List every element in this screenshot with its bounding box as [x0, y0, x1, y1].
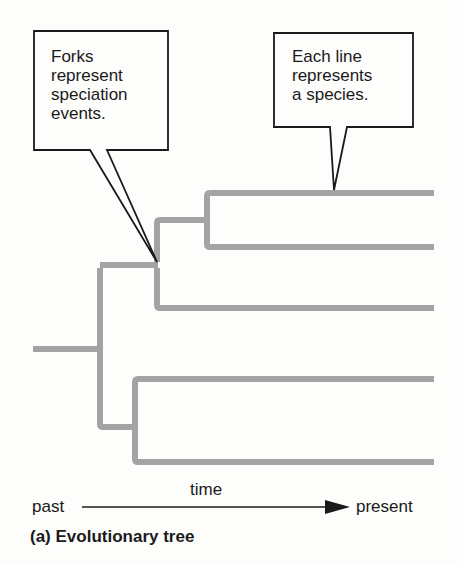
- present-label: present: [356, 497, 413, 517]
- lower-fork: [135, 379, 434, 462]
- inner-fork: [207, 193, 434, 247]
- main-fork: [100, 265, 434, 427]
- figure-caption: (a) Evolutionary tree: [30, 527, 194, 547]
- callout-line: speciation: [51, 85, 128, 104]
- lines-callout-text: Each line represents a species.: [292, 47, 372, 104]
- forks-callout-text: Forks represent speciation events.: [51, 47, 128, 123]
- arrowhead-icon: [325, 500, 350, 514]
- tree-branches: [33, 193, 434, 462]
- callout-line: Each line: [292, 47, 372, 66]
- time-label: time: [190, 480, 222, 500]
- past-label: past: [32, 497, 64, 517]
- callout-line: represents: [292, 66, 372, 85]
- callout-line: Forks: [51, 47, 128, 66]
- callout-line: events.: [51, 104, 128, 123]
- callout-line: a species.: [292, 85, 372, 104]
- callout-line: represent: [51, 66, 128, 85]
